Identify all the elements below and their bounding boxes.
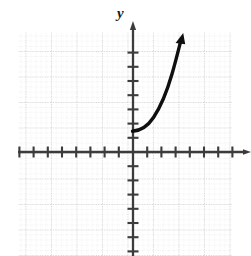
x-axis-arrowhead (243, 149, 251, 155)
y-axis-label: y (117, 6, 124, 21)
grid-background (18, 32, 232, 256)
graph-figure: y (0, 0, 251, 256)
coordinate-plane-svg (0, 0, 251, 256)
y-axis-arrowhead (130, 21, 136, 30)
